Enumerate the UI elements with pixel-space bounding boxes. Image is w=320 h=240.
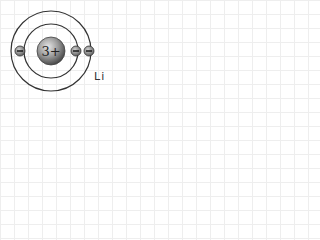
- element-symbol-label: Li: [94, 70, 105, 83]
- lithium-atom-diagram: 3+: [0, 0, 115, 101]
- electron-inner-right: [71, 46, 81, 56]
- electron-outer-right: [84, 46, 94, 56]
- electron-inner-left: [15, 46, 25, 56]
- nucleus-charge-label: 3+: [41, 44, 60, 59]
- nucleus: 3+: [37, 37, 65, 65]
